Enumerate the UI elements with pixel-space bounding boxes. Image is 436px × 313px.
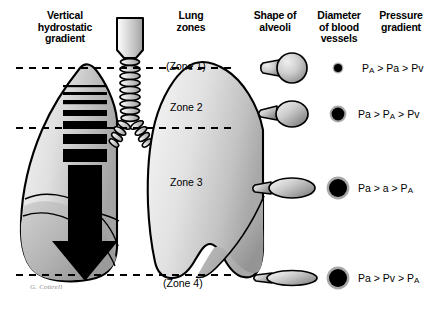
header-pressure-gradient: Pressure gradient [368,10,434,33]
header-line: vessels [306,33,372,45]
gradient-bar-7 [63,149,107,162]
blood-vessel-zone-4 [327,267,350,290]
right-main-bronchus [129,119,153,149]
alveolus-zone-2 [259,101,308,127]
alveolus-sac-2 [276,101,308,127]
header-line: Pressure [368,10,434,22]
header-lung-zones: Lung zones [152,10,230,33]
header-line: Diameter [306,10,372,22]
zone-label-zone-3: Zone 3 [170,176,203,188]
header-line: alveoli [240,22,310,34]
lung-zones-diagram: Vertical hydrostatic gradient Lung zones… [0,0,436,313]
blood-vessel-zone-1 [333,63,344,74]
trachea-top-block [117,18,143,58]
diagram-canvas [0,0,436,313]
gradient-bar-4 [63,110,107,116]
header-line: Shape of [240,10,310,22]
pressure-gradient-zone-3: Pa > a > PA [358,182,413,196]
pressure-gradient-zone-2: Pa > PA > Pv [358,108,419,122]
header-line: gradient [14,33,116,45]
gradient-bar-2 [63,92,107,95]
zone-label-zone-1: (Zone 1) [166,60,206,72]
header-line: Lung [152,10,230,22]
pressure-gradient-zone-4: Pa > Pv > PA [358,272,419,286]
alveolus-zone-1 [261,53,307,83]
alveolus-sac-4 [267,271,317,286]
alveolus-neck-2 [259,106,277,120]
header-diameter-of-blood-vessels: Diameter of blood vessels [306,10,372,45]
gradient-bar-1 [63,85,107,87]
pressure-gradient-zone-1: PA > Pa > Pv [362,62,423,76]
gradient-bar-3 [63,100,107,104]
alveolus-sac-1 [277,53,307,83]
artist-signature: G. Cottrell [30,283,62,291]
header-line: zones [152,22,230,34]
header-vertical-hydrostatic-gradient: Vertical hydrostatic gradient [14,10,116,45]
header-line: gradient [368,22,434,34]
blood-vessel-column [327,63,350,290]
header-shape-of-alveoli: Shape of alveoli [240,10,310,33]
right-lung-figure [148,62,264,278]
zone-label-zone-4: (Zone 4) [163,277,203,289]
alveolus-zone-4 [254,271,317,286]
blood-vessel-zone-2 [330,106,347,123]
alveolus-sac-3 [269,178,315,198]
gradient-bar-6 [63,134,107,144]
blood-vessel-zone-3 [327,177,350,200]
header-line: Vertical [14,10,116,22]
zone-label-zone-2: Zone 2 [170,101,203,113]
